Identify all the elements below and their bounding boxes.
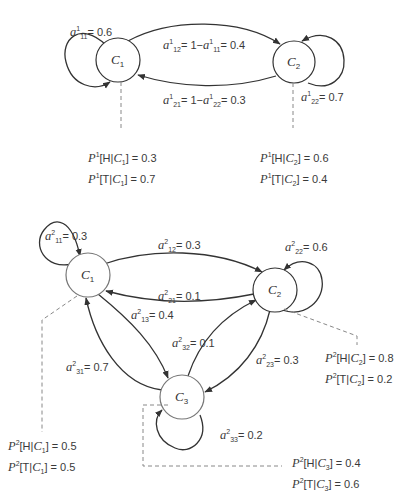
label-m1-a22: a122= 0.7 [301,87,344,108]
hmm-diagram-canvas [0,0,415,494]
leader-m2-c2 [284,309,357,345]
emission-m1-c1: P1[H|C1] = 0.3 P1[T|C1] = 0.7 [88,148,157,190]
label-m1-a21: a121= 1−a122= 0.3 [163,90,246,111]
emission-m1-c2-tails: P1[T|C2] = 0.4 [260,169,329,190]
label-m2-a32: a232= 0.1 [172,333,215,354]
emission-m1-c1-tails: P1[T|C1] = 0.7 [88,169,157,190]
emission-m1-c2: P1[H|C2] = 0.6 P1[T|C2] = 0.4 [260,148,329,190]
state-label-m1-c1: C1 [111,52,124,69]
emission-m2-c2-heads: P2[H|C2] = 0.8 [325,348,394,369]
emission-m1-c2-heads: P1[H|C2] = 0.6 [260,148,329,169]
emission-m2-c1-tails: P2[T|C1] = 0.5 [8,457,77,478]
edge-m1-a21 [138,75,276,86]
state-label-m2-c1: C1 [81,267,94,284]
label-m2-a13: a213= 0.4 [131,305,174,326]
label-m1-a11: a111= 0.6 [70,22,112,43]
label-m2-a23: a223= 0.3 [256,350,299,371]
state-label-m1-c2: C2 [287,54,300,71]
emission-m1-c1-heads: P1[H|C1] = 0.3 [88,148,157,169]
emission-m2-c2-tails: P2[T|C2] = 0.2 [325,369,394,390]
label-m2-a12: a212= 0.3 [158,235,201,256]
emission-m2-c3-heads: P2[H|C3] = 0.4 [292,453,361,474]
label-m2-a22: a222= 0.6 [285,237,328,258]
emission-m2-c1-heads: P2[H|C1] = 0.5 [8,436,77,457]
emission-m2-c2: P2[H|C2] = 0.8 P2[T|C2] = 0.2 [325,348,394,390]
emission-m2-c1: P2[H|C1] = 0.5 P2[T|C1] = 0.5 [8,436,77,478]
emission-m2-c3-tails: P2[T|C3] = 0.6 [292,474,361,494]
label-m2-a33: a233= 0.2 [220,425,263,446]
label-m2-a31: a231= 0.7 [66,357,109,378]
state-label-m2-c2: C2 [268,282,281,299]
emission-m2-c3: P2[H|C3] = 0.4 P2[T|C3] = 0.6 [292,453,361,494]
label-m2-a11: a211= 0.3 [45,226,87,247]
state-label-m2-c3: C3 [175,389,188,406]
label-m1-a12: a112= 1−a111= 0.4 [163,35,245,56]
label-m2-a21: a221= 0.1 [158,286,201,307]
